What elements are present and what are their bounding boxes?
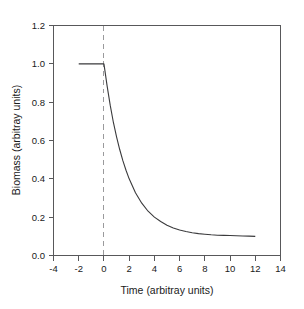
y-tick-label: 0.4: [32, 173, 45, 184]
x-tick-label: 6: [177, 263, 182, 274]
x-axis-ticks: [54, 256, 281, 261]
x-tick-label: 12: [250, 263, 261, 274]
y-tick-label: 0.8: [32, 97, 45, 108]
x-tick-label: -2: [74, 263, 82, 274]
y-axis-tick-labels: 1.2 1.0 0.8 0.6 0.4 0.2 0.0: [32, 20, 45, 261]
y-tick-label: 0.0: [32, 250, 45, 261]
y-tick-label: 1.0: [32, 58, 45, 69]
y-tick-label: 0.2: [32, 212, 45, 223]
chart-figure: 1.2 1.0 0.8 0.6 0.4 0.2 0.0 -4 -2 0 2: [0, 0, 304, 309]
x-tick-label: 14: [275, 263, 286, 274]
y-tick-label: 0.6: [32, 135, 45, 146]
x-tick-label: 8: [202, 263, 207, 274]
y-tick-label: 1.2: [32, 20, 45, 31]
x-tick-label: 0: [101, 263, 106, 274]
x-axis-tick-labels: -4 -2 0 2 4 6 8 10 12 14: [49, 263, 286, 274]
biomass-curve: [79, 64, 256, 237]
x-axis-title: Time (arbitray units): [121, 284, 214, 296]
y-axis-title: Biomass (arbitray units): [10, 85, 22, 195]
y-axis-ticks: [49, 26, 54, 256]
x-tick-label: 2: [127, 263, 132, 274]
plot-frame: [54, 26, 281, 256]
x-tick-label: 4: [152, 263, 157, 274]
x-tick-label: -4: [49, 263, 57, 274]
x-tick-label: 10: [225, 263, 236, 274]
biomass-decay-chart: 1.2 1.0 0.8 0.6 0.4 0.2 0.0 -4 -2 0 2: [0, 0, 304, 309]
